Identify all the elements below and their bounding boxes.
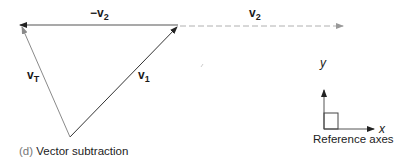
v2-label: v2 [249, 6, 261, 22]
v1-label: v1 [138, 68, 150, 84]
v1-arrow [70, 27, 177, 137]
vT-label: vT [27, 68, 39, 84]
y-axis-label: y [320, 56, 326, 70]
right-angle-marker [324, 113, 338, 129]
caption-text: Vector subtraction [36, 145, 128, 157]
figure-caption: (d) Vector subtraction [19, 145, 128, 157]
caption-tag: (d) [19, 145, 33, 157]
stray-mark [201, 64, 203, 67]
reference-axes-label: Reference axes [313, 133, 394, 145]
neg-v2-label: −v2 [90, 6, 109, 22]
